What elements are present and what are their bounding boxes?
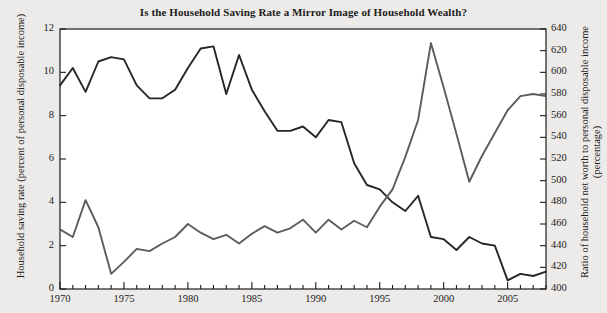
y-tick-label-right-440: 440 xyxy=(551,239,577,250)
x-tick-label-1975: 1975 xyxy=(104,293,144,304)
y-tick-label-right-540: 540 xyxy=(551,130,577,141)
x-tick-label-2000: 2000 xyxy=(424,293,464,304)
y-tick-label-right-580: 580 xyxy=(551,87,577,98)
y-tick-label-right-560: 560 xyxy=(551,109,577,120)
y-tick-label-left-8: 8 xyxy=(30,109,54,120)
y-tick-label-left-10: 10 xyxy=(30,65,54,76)
y-tick-label-right-520: 520 xyxy=(551,152,577,163)
x-tick-label-1985: 1985 xyxy=(232,293,272,304)
y-tick-label-right-400: 400 xyxy=(551,282,577,293)
y-tick-label-left-4: 4 xyxy=(30,195,54,206)
y-tick-label-left-12: 12 xyxy=(30,22,54,33)
y-tick-label-right-600: 600 xyxy=(551,65,577,76)
y-tick-label-right-640: 640 xyxy=(551,22,577,33)
y-tick-label-right-500: 500 xyxy=(551,174,577,185)
y-tick-label-left-6: 6 xyxy=(30,152,54,163)
x-tick-label-2005: 2005 xyxy=(488,293,528,304)
x-tick-label-1995: 1995 xyxy=(360,293,400,304)
x-tick-label-1990: 1990 xyxy=(296,293,336,304)
x-tick-label-1980: 1980 xyxy=(168,293,208,304)
y-tick-label-left-2: 2 xyxy=(30,239,54,250)
plot-area xyxy=(0,0,607,313)
y-tick-label-right-620: 620 xyxy=(551,44,577,55)
y-tick-label-left-0: 0 xyxy=(30,282,54,293)
y-tick-label-right-420: 420 xyxy=(551,260,577,271)
x-tick-label-1970: 1970 xyxy=(40,293,80,304)
y-tick-label-right-460: 460 xyxy=(551,217,577,228)
y-tick-label-right-480: 480 xyxy=(551,195,577,206)
chart-figure: Is the Household Saving Rate a Mirror Im… xyxy=(0,0,607,313)
